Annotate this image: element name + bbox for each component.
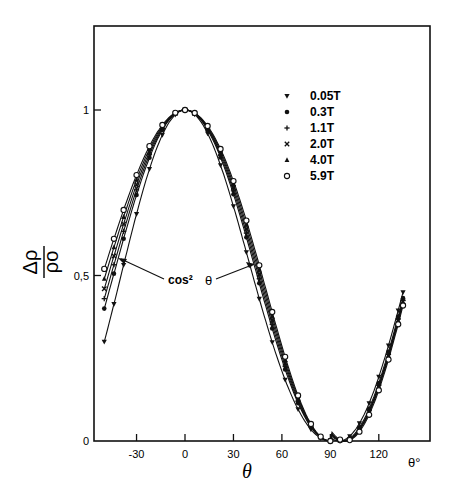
- filled-circle-marker-icon: [285, 110, 290, 115]
- open-circle-marker-icon: [205, 123, 210, 128]
- triangle-down-marker-icon: [160, 133, 165, 138]
- legend: 0.05T0.3T1.1T2.0T4.0T5.9T: [284, 89, 341, 183]
- annotation-arrow-left: [121, 259, 164, 279]
- triangle-down-marker-icon: [295, 407, 300, 412]
- open-circle-marker-icon: [173, 110, 178, 115]
- x-tick-label: 90: [324, 448, 336, 460]
- plot-frame: [94, 26, 430, 441]
- triangle-down-marker-icon: [283, 378, 288, 383]
- triangle-down-marker-icon: [284, 94, 289, 99]
- open-circle-marker-icon: [257, 263, 262, 268]
- annotation-theta: θ: [205, 273, 212, 288]
- filled-triangle-up-marker-icon: [102, 276, 107, 281]
- open-circle-marker-icon: [270, 309, 275, 314]
- x-axis-unit-label: θ°: [408, 455, 420, 470]
- filled-circle-marker-icon: [244, 235, 249, 240]
- x-tick-label: 0: [182, 448, 188, 460]
- annotation-cos2: cos²: [168, 273, 193, 287]
- open-circle-marker-icon: [283, 354, 288, 359]
- open-circle-marker-icon: [386, 357, 391, 362]
- legend-label: 1.1T: [310, 121, 335, 135]
- open-circle-marker-icon: [308, 421, 313, 426]
- open-circle-marker-icon: [244, 218, 249, 223]
- x-tick-label: 30: [227, 448, 239, 460]
- open-circle-marker-icon: [121, 207, 126, 212]
- y-axis-label-denominator: ρo: [40, 251, 62, 274]
- triangle-down-marker-icon: [102, 340, 107, 345]
- open-circle-marker-icon: [218, 146, 223, 151]
- triangle-down-marker-icon: [270, 340, 275, 345]
- legend-label: 4.0T: [310, 153, 335, 167]
- open-circle-marker-icon: [192, 110, 197, 115]
- open-circle-marker-icon: [231, 178, 236, 183]
- data-markers: [102, 107, 406, 444]
- open-circle-marker-icon: [147, 144, 152, 149]
- filled-circle-marker-icon: [112, 271, 117, 276]
- x-axis-label: θ: [242, 460, 252, 482]
- filled-circle-marker-icon: [134, 193, 139, 198]
- filled-circle-marker-icon: [121, 236, 126, 241]
- open-circle-marker-icon: [396, 322, 401, 327]
- open-circle-marker-icon: [284, 173, 289, 178]
- open-circle-marker-icon: [357, 429, 362, 434]
- legend-label: 5.9T: [310, 169, 335, 183]
- triangle-down-marker-icon: [244, 250, 249, 255]
- open-circle-marker-icon: [347, 438, 352, 443]
- legend-label: 0.05T: [310, 89, 341, 103]
- y-tick-label: 1: [83, 104, 89, 116]
- open-circle-marker-icon: [337, 437, 342, 442]
- x-tick-label: 120: [370, 448, 388, 460]
- open-circle-marker-icon: [328, 438, 333, 443]
- triangle-down-marker-icon: [231, 204, 236, 209]
- x-tick-label: -30: [129, 448, 145, 460]
- legend-label: 0.3T: [310, 105, 335, 119]
- open-circle-marker-icon: [400, 303, 405, 308]
- annotation-arrow-right: [216, 265, 252, 279]
- y-tick-label: 0,5: [74, 270, 89, 282]
- open-circle-marker-icon: [376, 388, 381, 393]
- open-circle-marker-icon: [111, 236, 116, 241]
- chart: -300306090120 00,51 0.05T0.3T1.1T2.0T4.0…: [0, 0, 453, 500]
- triangle-down-marker-icon: [257, 297, 262, 302]
- y-tick-label: 0: [83, 435, 89, 447]
- x-tick-label: 60: [276, 448, 288, 460]
- y-axis-label-numerator: Δρ: [19, 250, 41, 275]
- filled-circle-marker-icon: [257, 281, 262, 286]
- open-circle-marker-icon: [160, 122, 165, 127]
- open-circle-marker-icon: [295, 393, 300, 398]
- triangle-down-marker-icon: [218, 163, 223, 168]
- legend-label: 2.0T: [310, 137, 335, 151]
- filled-triangle-up-marker-icon: [285, 157, 290, 162]
- open-circle-marker-icon: [318, 434, 323, 439]
- open-circle-marker-icon: [182, 107, 187, 112]
- y-axis: 00,51: [74, 104, 101, 447]
- triangle-down-marker-icon: [111, 302, 116, 307]
- triangle-down-marker-icon: [147, 167, 152, 172]
- triangle-down-marker-icon: [134, 212, 139, 217]
- open-circle-marker-icon: [134, 172, 139, 177]
- filled-circle-marker-icon: [102, 306, 107, 311]
- open-circle-marker-icon: [102, 266, 107, 271]
- open-circle-marker-icon: [367, 412, 372, 417]
- triangle-down-marker-icon: [400, 290, 405, 295]
